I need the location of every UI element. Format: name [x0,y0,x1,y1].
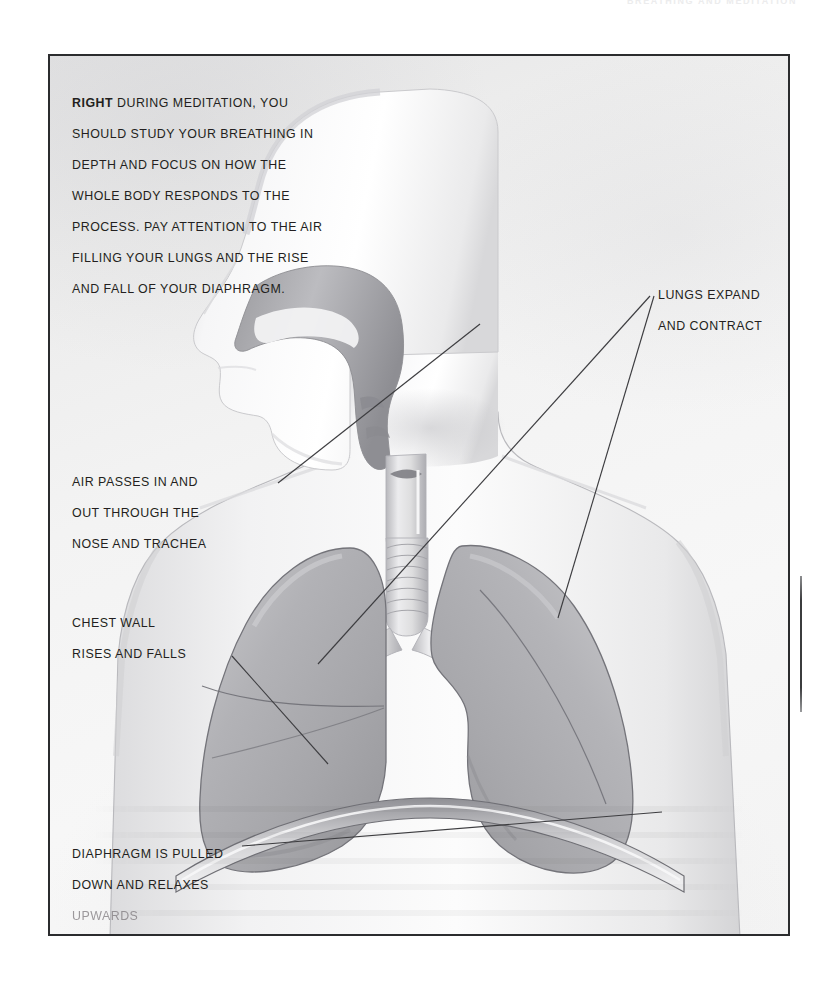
caption-lead-word: RIGHT [72,96,113,110]
illustration-panel: RIGHT DURING MEDITATION, YOU SHOULD STUD… [48,54,790,936]
page-edge-rule [800,576,802,712]
annotation-diaphragm: DIAPHRAGM IS PULLED DOWN AND RELAXES UPW… [72,808,322,936]
annotation-air-passes: AIR PASSES IN AND OUT THROUGH THE NOSE A… [72,467,292,560]
running-header: BREATHING AND MEDITATION [627,0,797,5]
annotation-diaphragm-main: DIAPHRAGM IS PULLED DOWN AND RELAXES [72,847,223,892]
annotation-lungs-expand: LUNGS EXPAND AND CONTRACT [658,280,790,342]
panel-inner: RIGHT DURING MEDITATION, YOU SHOULD STUD… [50,56,788,934]
caption-block: RIGHT DURING MEDITATION, YOU SHOULD STUD… [72,88,324,305]
caption-body: DURING MEDITATION, YOU SHOULD STUDY YOUR… [72,96,322,296]
annotation-diaphragm-faded: UPWARDS [72,901,322,932]
annotation-chest-wall: CHEST WALL RISES AND FALLS [72,608,292,670]
page-root: BREATHING AND MEDITATION [0,0,839,987]
